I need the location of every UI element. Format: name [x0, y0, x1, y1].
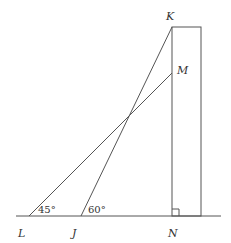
segment-LM	[29, 73, 172, 216]
label-N: N	[167, 227, 178, 240]
label-L: L	[17, 227, 25, 240]
label-J: J	[70, 227, 77, 240]
segment-JK	[81, 27, 172, 216]
tower-rectangle	[172, 27, 201, 216]
angle-L: 45°	[38, 204, 56, 215]
right-angle-marker	[172, 209, 179, 216]
geometry-diagram: K M L J N 45° 60°	[0, 0, 231, 243]
angle-J: 60°	[88, 204, 106, 215]
label-K: K	[165, 10, 175, 23]
label-M: M	[176, 64, 189, 77]
